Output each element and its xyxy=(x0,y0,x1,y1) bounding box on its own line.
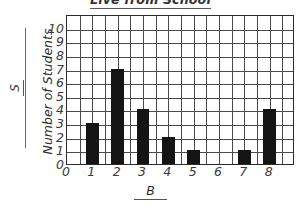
bars-layer xyxy=(67,16,293,164)
x-axis-tick-label: 1 xyxy=(81,166,101,179)
x-axis-tick-label: 0 xyxy=(56,166,76,179)
y-axis-tick-label: 10 xyxy=(44,23,64,36)
y-axis-divider xyxy=(25,28,26,148)
plot-area xyxy=(66,15,294,165)
y-axis-tick-label: 2 xyxy=(44,132,64,145)
chart-title-text: Live from School xyxy=(90,0,211,9)
y-axis-tick-label: 7 xyxy=(44,64,64,77)
x-axis-title-text: B xyxy=(134,183,167,200)
x-axis-tick-label: 6 xyxy=(208,166,228,179)
y-axis-tick-label: 4 xyxy=(44,104,64,117)
bar xyxy=(238,150,251,164)
y-axis-symbol-text: S xyxy=(8,80,24,96)
x-axis-tick-label: 8 xyxy=(259,166,279,179)
y-axis-symbol: S xyxy=(0,75,35,101)
x-axis-tick-label: 7 xyxy=(233,166,253,179)
y-axis-tick-label: 5 xyxy=(44,91,64,104)
x-axis-tick-label: 5 xyxy=(183,166,203,179)
bar xyxy=(162,137,175,164)
bar xyxy=(111,69,124,164)
x-axis-title: B xyxy=(0,183,301,198)
y-axis-tick-label: 9 xyxy=(44,36,64,49)
y-axis-tick-label: 1 xyxy=(44,145,64,158)
bar-chart-figure: Live from School S Number of Students 01… xyxy=(0,0,301,206)
x-axis-tick-labels: 012345678 xyxy=(66,166,294,184)
y-axis-tick-label: 6 xyxy=(44,77,64,90)
chart-title: Live from School xyxy=(0,0,301,7)
bar xyxy=(86,123,99,164)
x-axis-tick-label: 4 xyxy=(157,166,177,179)
bar xyxy=(137,109,150,164)
x-axis-tick-label: 2 xyxy=(107,166,127,179)
y-axis-tick-label: 8 xyxy=(44,50,64,63)
y-axis-tick-labels: 012345678910 xyxy=(40,15,64,165)
bar xyxy=(263,109,276,164)
y-axis-tick-label: 3 xyxy=(44,118,64,131)
bar xyxy=(187,150,200,164)
x-axis-tick-label: 3 xyxy=(132,166,152,179)
